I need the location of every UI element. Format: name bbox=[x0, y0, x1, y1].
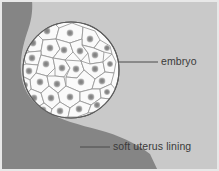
label-uterus-lining: soft uterus lining bbox=[113, 140, 191, 152]
embryo-implantation-diagram: embryo soft uterus lining bbox=[0, 0, 219, 171]
label-embryo: embryo bbox=[161, 55, 197, 67]
